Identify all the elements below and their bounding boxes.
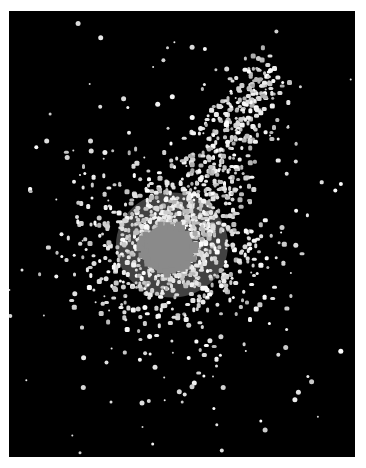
image-frame [9, 11, 355, 457]
particle-cloud-image [9, 11, 355, 457]
